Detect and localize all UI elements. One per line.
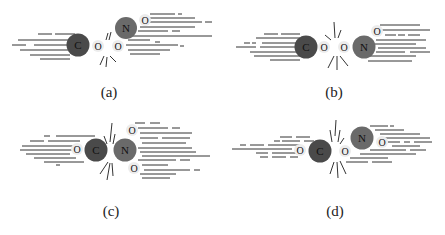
- panel-caption: (d): [315, 203, 355, 220]
- svg-text:N: N: [358, 132, 366, 144]
- svg-text:O: O: [94, 41, 101, 52]
- svg-text:N: N: [360, 41, 368, 53]
- motion-streaks-left: [12, 34, 75, 59]
- panel-caption: (c): [91, 203, 131, 220]
- svg-text:O: O: [128, 125, 135, 136]
- motion-streaks-right: [126, 14, 212, 54]
- panel-caption: (b): [314, 84, 354, 101]
- motion-streaks-right: [135, 123, 210, 178]
- svg-text:O: O: [378, 137, 385, 148]
- svg-text:O: O: [114, 41, 121, 52]
- panel-d: O C O N O (d): [220, 118, 442, 235]
- panel-b: C O O N O (b): [220, 0, 442, 117]
- svg-text:O: O: [130, 163, 137, 174]
- svg-text:C: C: [302, 41, 309, 53]
- svg-text:O: O: [341, 146, 348, 157]
- svg-text:N: N: [121, 144, 129, 156]
- svg-text:O: O: [141, 15, 148, 26]
- svg-text:O: O: [340, 42, 347, 53]
- svg-text:O: O: [73, 144, 80, 155]
- svg-text:O: O: [373, 26, 380, 37]
- panel-c: O C N O O (c): [0, 118, 222, 235]
- svg-text:O: O: [320, 42, 327, 53]
- svg-text:C: C: [92, 144, 99, 156]
- motion-streaks-left: [236, 34, 300, 60]
- svg-text:C: C: [74, 39, 81, 51]
- svg-text:O: O: [296, 145, 303, 156]
- motion-streaks-left: [20, 136, 95, 165]
- svg-text:N: N: [122, 22, 130, 34]
- svg-text:C: C: [316, 145, 323, 157]
- panel-a: C O O N O (a): [0, 0, 222, 117]
- panel-caption: (a): [89, 84, 129, 101]
